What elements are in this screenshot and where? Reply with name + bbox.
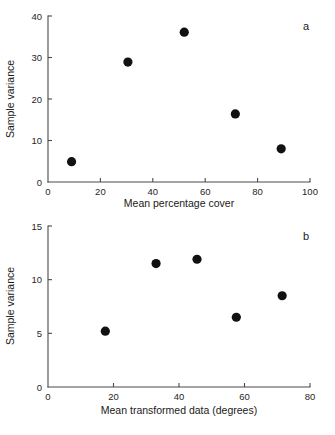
x-tick-label: 100 <box>302 186 318 197</box>
chart-panel-b: 020406080051015 Mean transformed data (d… <box>0 210 335 435</box>
x-tick-label: 80 <box>252 186 263 197</box>
y-tick-label: 20 <box>31 94 42 105</box>
y-tick-label: 10 <box>31 274 42 285</box>
data-point <box>123 57 132 66</box>
data-point <box>151 259 160 268</box>
x-tick-label: 20 <box>95 186 106 197</box>
chart-panel-a: 020406080100010203040 Mean percentage co… <box>0 0 335 215</box>
axes-b <box>48 226 310 387</box>
x-tick-label: 20 <box>108 391 119 402</box>
data-point <box>277 144 286 153</box>
data-point <box>231 109 240 118</box>
axes-a <box>48 16 310 182</box>
data-point <box>180 28 189 37</box>
y-tick-label: 15 <box>31 221 42 232</box>
figure-two-panel-scatter: 020406080100010203040 Mean percentage co… <box>0 0 335 435</box>
x-tick-label: 60 <box>200 186 211 197</box>
scatter-plot-b: 020406080051015 Mean transformed data (d… <box>0 210 335 435</box>
x-tick-label: 60 <box>239 391 250 402</box>
scatter-plot-a: 020406080100010203040 Mean percentage co… <box>0 0 335 215</box>
panel-label-b: b <box>303 230 309 242</box>
data-point <box>101 327 110 336</box>
data-point <box>192 255 201 264</box>
tick-group-a: 020406080100010203040 <box>31 11 318 198</box>
x-tick-label: 0 <box>45 391 50 402</box>
data-point-group-a <box>67 28 286 167</box>
x-axis-title-a: Mean percentage cover <box>124 197 235 209</box>
y-axis-title-b: Sample variance <box>4 267 16 345</box>
data-point <box>232 313 241 322</box>
x-tick-label: 0 <box>45 186 50 197</box>
tick-group-b: 020406080051015 <box>31 221 315 403</box>
y-tick-label: 5 <box>37 328 42 339</box>
y-tick-label: 30 <box>31 52 42 63</box>
x-tick-label: 80 <box>305 391 316 402</box>
x-tick-label: 40 <box>174 391 185 402</box>
x-tick-label: 40 <box>148 186 159 197</box>
y-tick-label: 10 <box>31 135 42 146</box>
data-point <box>67 157 76 166</box>
data-point-group-b <box>101 255 287 336</box>
x-axis-title-b: Mean transformed data (degrees) <box>101 404 257 416</box>
panel-label-a: a <box>303 20 310 32</box>
y-axis-title-a: Sample variance <box>4 60 16 138</box>
y-tick-label: 0 <box>37 382 42 393</box>
data-point <box>278 291 287 300</box>
y-tick-label: 0 <box>37 177 42 188</box>
y-tick-label: 40 <box>31 11 42 22</box>
